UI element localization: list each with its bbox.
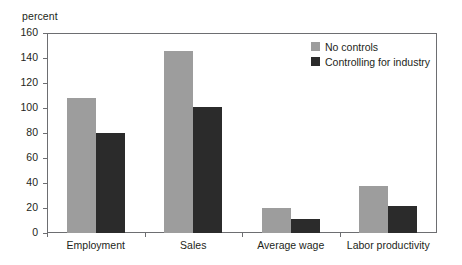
legend-swatch-icon [311, 42, 320, 51]
legend-label: No controls [325, 41, 378, 53]
legend-swatch-icon [311, 57, 320, 66]
x-axis-tick-mark [47, 233, 48, 237]
y-axis-tick-label: 120 [20, 76, 38, 88]
x-axis-category-label: Average wage [257, 239, 324, 251]
y-axis-tick-label: 160 [20, 26, 38, 38]
bar-chart: percent 020406080100120140160 Employment… [0, 0, 462, 265]
y-axis-unit-label: percent [22, 10, 58, 22]
x-axis-category-label: Sales [180, 239, 206, 251]
bar [164, 51, 193, 234]
x-axis-category-label: Labor productivity [347, 239, 430, 251]
y-axis-tick-label: 20 [26, 201, 38, 213]
bar [359, 186, 388, 234]
x-axis-tick-mark [340, 233, 341, 237]
bar [193, 107, 222, 233]
legend-item: No controls [311, 40, 430, 53]
x-axis-tick-mark [145, 233, 146, 237]
legend-item: Controlling for industry [311, 55, 430, 68]
legend-label: Controlling for industry [325, 56, 430, 68]
y-axis-tick-label: 60 [26, 151, 38, 163]
y-axis-tick-label: 140 [20, 51, 38, 63]
y-axis-tick-label: 0 [32, 226, 38, 238]
bar [388, 206, 417, 234]
y-axis-tick-label: 80 [26, 126, 38, 138]
y-axis-tick-label: 100 [20, 101, 38, 113]
bar [262, 208, 291, 233]
y-axis-tick-label: 40 [26, 176, 38, 188]
bar [96, 133, 125, 233]
x-axis-tick-mark [242, 233, 243, 237]
bar [67, 98, 96, 233]
bar [291, 219, 320, 233]
chart-legend: No controlsControlling for industry [311, 40, 430, 70]
x-axis-category-label: Employment [67, 239, 125, 251]
